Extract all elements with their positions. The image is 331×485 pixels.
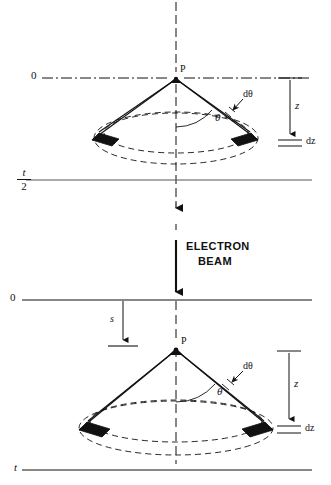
upper-dtheta-label: dθ (243, 89, 253, 99)
upper-detector-bar-right (231, 133, 258, 146)
lower-thickness-dz-label: dz (305, 423, 314, 433)
lower-thickness-t-label: t (14, 462, 17, 473)
upper-panel (26, 2, 312, 230)
upper-thickness-dz-dimension (278, 140, 302, 146)
upper-theta-label: θ (215, 112, 220, 123)
lower-zero-label: 0 (10, 292, 16, 303)
lower-depth-z-label: z (294, 378, 298, 389)
figure-canvas (0, 0, 331, 485)
upper-half-thickness-label: t 2 (17, 167, 31, 192)
lower-panel (22, 240, 312, 470)
lower-detector-bar-left (79, 422, 110, 437)
upper-thickness-dz-label: dz (306, 136, 315, 146)
lower-apex-point (169, 348, 183, 355)
upper-zero-label: 0 (31, 70, 37, 81)
upper-apex-point (170, 77, 182, 83)
scattering-cone-figure: 0 P θ dθ z dz t 2 ELECTRON BEAM 0 s P θ … (0, 0, 331, 485)
upper-dtheta-leader-arrow (233, 99, 243, 110)
lower-cone-right-ray (176, 350, 273, 430)
lower-theta-label: θ (217, 386, 222, 397)
upper-cone-left-ray (92, 79, 176, 140)
half-thickness-numerator: t (17, 167, 31, 178)
lower-thickness-dz-dimension (277, 426, 301, 433)
lower-dtheta-label: dθ (243, 361, 253, 371)
upper-apex-label-p: P (180, 64, 186, 74)
electron-beam-label-line2: BEAM (198, 256, 232, 267)
electron-beam-label-line1: ELECTRON (186, 241, 250, 252)
lower-cone-left-ray (79, 350, 176, 430)
upper-theta-arc (176, 110, 212, 127)
half-thickness-denominator: 2 (17, 181, 31, 192)
lower-theta-arc (176, 384, 215, 402)
lower-depth-s-label: s (110, 314, 114, 324)
upper-depth-z-label: z (295, 100, 299, 111)
lower-dtheta-leader-arrow (232, 371, 243, 382)
lower-apex-label-p: P (181, 336, 187, 346)
lower-detector-bar-right (242, 422, 273, 437)
